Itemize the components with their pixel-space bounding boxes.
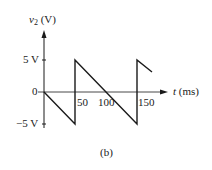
y-axis-arrow-icon	[42, 30, 47, 38]
y-tick-label-m5: −5 V	[16, 118, 38, 129]
figure-caption: (b)	[100, 147, 113, 158]
x-axis-unit: (ms)	[176, 85, 199, 97]
y-axis-label: v2 (V)	[29, 14, 56, 27]
x-axis-arrow-icon	[160, 90, 168, 95]
y-tick-label-0: 0	[32, 86, 38, 97]
y-axis-unit: (V)	[38, 13, 56, 25]
x-axis-label: t (ms)	[173, 86, 199, 97]
x-tick-label-150: 150	[138, 97, 155, 108]
x-tick-label-50: 50	[77, 97, 88, 108]
x-tick-label-100: 100	[98, 97, 115, 108]
y-tick-label-5: 5 V	[23, 54, 39, 65]
